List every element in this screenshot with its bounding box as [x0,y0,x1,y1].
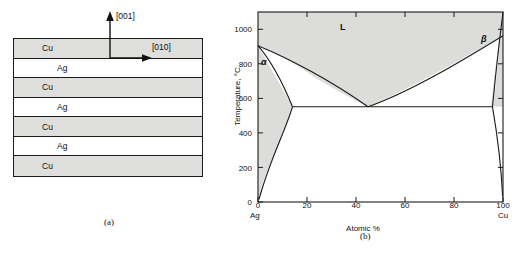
x-tick-label-group: 0 20 40 60 80 100 [220,201,516,215]
liquid-phase-label: L [340,22,346,32]
figure-root: Cu Ag Cu Ag Cu Ag Cu [0,0,516,253]
layer-row: Ag [14,137,202,157]
x-tick-label: 0 [246,201,270,210]
liquid-region [258,12,503,107]
panel-b-phase-diagram: Temperature, °C Atomic % Ag Cu 0 200 400… [220,0,516,253]
panel-b-caption: (b) [360,231,371,241]
layer-label: Cu [42,43,53,53]
y-tick-label: 800 [226,60,252,69]
layer-row: Cu [14,39,202,59]
layer-label: Cu [42,161,53,171]
layer-row: Cu [14,117,202,137]
y-tick-label: 600 [226,94,252,103]
x-tick-label: 100 [491,201,515,210]
direction-label-010: [010] [152,42,171,52]
layer-label: Ag [57,102,67,112]
layer-row: Cu [14,156,202,176]
beta-phase-label: β [481,34,487,44]
layer-label: Ag [57,63,67,73]
x-tick-label: 60 [393,201,417,210]
y-tick-label: 200 [226,164,252,173]
x-tick-label: 20 [295,201,319,210]
x-tick-label: 40 [344,201,368,210]
layer-label: Ag [57,141,67,151]
y-tick-label-group: 0 200 400 600 800 1000 [226,0,252,253]
y-tick-label: 1000 [226,25,252,34]
phase-diagram-plot [220,0,516,253]
alpha-phase-label: α [261,57,267,67]
solvus-cu-curve [493,107,503,196]
y-tick-label: 400 [226,129,252,138]
layer-row: Cu [14,78,202,98]
panel-a-multilayer: Cu Ag Cu Ag Cu Ag Cu [0,0,220,253]
layer-label: Cu [42,122,53,132]
direction-label-001: [001] [116,11,135,21]
layer-row: Ag [14,59,202,79]
cu-ag-layer-stack: Cu Ag Cu Ag Cu Ag Cu [13,38,203,177]
layer-row: Ag [14,98,202,118]
layer-label: Cu [42,82,53,92]
panel-a-caption: (a) [104,217,114,227]
x-tick-label: 80 [442,201,466,210]
